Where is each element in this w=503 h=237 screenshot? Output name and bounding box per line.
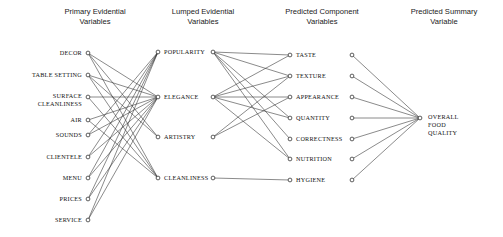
node-sounds[interactable] (86, 133, 90, 137)
edge-texture-to-overall_food_quality (352, 76, 420, 118)
node-cleanliness[interactable] (156, 176, 160, 180)
node-label-prices: PRICES (60, 195, 83, 202)
node-quantity[interactable] (288, 116, 292, 120)
node-label-taste: TASTE (296, 51, 316, 58)
node-label-overall_food_quality: OVERALL (428, 113, 459, 120)
node-label-nutrition: NUTRITION (296, 155, 332, 162)
node-label-overall_food_quality-line3: QUALITY (428, 129, 458, 136)
node-label-air: AIR (71, 116, 83, 123)
node-nutrition-output-port[interactable] (350, 157, 354, 161)
column-title-lumped: Lumped Evidential (172, 7, 235, 16)
node-table_setting[interactable] (86, 73, 90, 77)
edge-clientele-to-popularity (88, 52, 158, 157)
node-label-layer: DECORTABLE SETTINGSURFACECLEANLINESSAIRS… (32, 48, 459, 223)
node-label-table_setting: TABLE SETTING (32, 71, 82, 78)
node-label-correctness: CORRECTNESS (296, 135, 343, 142)
column-title-primary-line2: Variables (79, 17, 110, 26)
edge-layer (88, 52, 420, 220)
node-label-surface_cleanliness: SURFACE (53, 92, 82, 99)
node-correctness[interactable] (288, 137, 292, 141)
edge-popularity-to-nutrition (213, 52, 290, 159)
edge-correctness-to-overall_food_quality (352, 118, 420, 139)
edge-popularity-to-correctness (213, 52, 290, 139)
node-label-sounds: SOUNDS (56, 131, 83, 138)
edge-popularity-to-texture (213, 52, 290, 76)
node-service[interactable] (86, 218, 90, 222)
node-label-decor: DECOR (60, 49, 83, 56)
node-label-hygiene: HYGIENE (296, 176, 325, 183)
edge-elegance-to-taste (213, 55, 290, 97)
edge-hygiene-to-overall_food_quality (352, 118, 420, 180)
node-quantity-output-port[interactable] (350, 116, 354, 120)
column-title-component: Predicted Component (285, 7, 359, 16)
node-label-quantity: QUANTITY (296, 114, 330, 121)
edge-air-to-elegance (88, 97, 158, 120)
node-taste-output-port[interactable] (350, 53, 354, 57)
node-air[interactable] (86, 118, 90, 122)
node-label-elegance: ELEGANCE (164, 93, 199, 100)
node-surface_cleanliness[interactable] (86, 95, 90, 99)
edge-taste-to-overall_food_quality (352, 55, 420, 118)
node-artistry[interactable] (156, 135, 160, 139)
node-popularity[interactable] (156, 50, 160, 54)
node-label-appearance: APPEARANCE (296, 93, 339, 100)
node-label-popularity: POPULARITY (164, 48, 205, 55)
node-elegance-output-port[interactable] (211, 95, 215, 99)
node-cleanliness-output-port[interactable] (211, 176, 215, 180)
edge-artistry-to-appearance (213, 97, 290, 137)
node-hygiene-output-port[interactable] (350, 178, 354, 182)
edge-appearance-to-overall_food_quality (352, 97, 420, 118)
node-popularity-output-port[interactable] (211, 50, 215, 54)
node-texture-output-port[interactable] (350, 74, 354, 78)
node-label-cleanliness: CLEANLINESS (164, 174, 209, 181)
node-label-overall_food_quality-line2: FOOD (428, 121, 446, 128)
node-overall_food_quality[interactable] (418, 116, 422, 120)
edge-popularity-to-taste (213, 52, 290, 55)
column-title-summary: Predicted Summary (411, 7, 478, 16)
edge-air-to-cleanliness (88, 120, 158, 178)
edge-cleanliness-to-hygiene (213, 178, 290, 180)
node-label-texture: TEXTURE (296, 72, 326, 79)
node-label-menu: MENU (63, 174, 82, 181)
edge-elegance-to-texture (213, 76, 290, 97)
node-label-surface_cleanliness-line2: CLEANLINESS (38, 100, 83, 107)
column-title-summary-line2: Variable (430, 17, 457, 26)
edge-elegance-to-quantity (213, 97, 290, 118)
node-clientele[interactable] (86, 155, 90, 159)
node-layer (86, 50, 422, 222)
node-taste[interactable] (288, 53, 292, 57)
node-texture[interactable] (288, 74, 292, 78)
node-appearance-output-port[interactable] (350, 95, 354, 99)
node-nutrition[interactable] (288, 157, 292, 161)
node-artistry-output-port[interactable] (211, 135, 215, 139)
edge-nutrition-to-overall_food_quality (352, 118, 420, 159)
column-title-component-line2: Variables (306, 17, 337, 26)
node-label-clientele: CLIENTELE (46, 153, 82, 160)
node-decor[interactable] (86, 51, 90, 55)
column-title-lumped-line2: Variables (187, 17, 218, 26)
edge-service-to-popularity (88, 52, 158, 220)
node-elegance[interactable] (156, 95, 160, 99)
column-title-primary: Primary Evidential (64, 7, 126, 16)
node-menu[interactable] (86, 176, 90, 180)
node-prices[interactable] (86, 197, 90, 201)
node-label-service: SERVICE (55, 216, 82, 223)
node-hygiene[interactable] (288, 178, 292, 182)
bayesian-network-diagram: DECORTABLE SETTINGSURFACECLEANLINESSAIRS… (0, 0, 503, 237)
node-appearance[interactable] (288, 95, 292, 99)
node-correctness-output-port[interactable] (350, 137, 354, 141)
edge-decor-to-artistry (88, 53, 158, 137)
node-label-artistry: ARTISTRY (164, 133, 196, 140)
edge-prices-to-popularity (88, 52, 158, 199)
column-title-layer: Primary EvidentialVariablesLumped Eviden… (64, 7, 477, 26)
